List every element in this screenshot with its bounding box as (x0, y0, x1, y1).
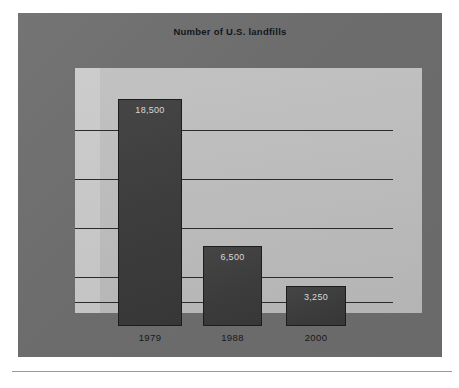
bar-value-label: 18,500 (119, 105, 181, 115)
bar-2000: 3,250 (286, 286, 346, 326)
chart-title: Number of U.S. landfills (18, 26, 442, 37)
bottom-divider (12, 371, 452, 372)
x-label-1979: 1979 (118, 332, 182, 343)
bar-value-label: 6,500 (204, 252, 261, 262)
x-label-1988: 1988 (203, 332, 262, 343)
bar-1988: 6,500 (203, 246, 262, 326)
bar-1979: 18,500 (118, 99, 182, 326)
x-label-2000: 2000 (286, 332, 346, 343)
plot-area: 18,5006,5003,250 197919882000 (75, 55, 435, 316)
bar-value-label: 3,250 (287, 292, 345, 302)
chart-figure-frame: Number of U.S. landfills 18,5006,5003,25… (18, 13, 442, 357)
